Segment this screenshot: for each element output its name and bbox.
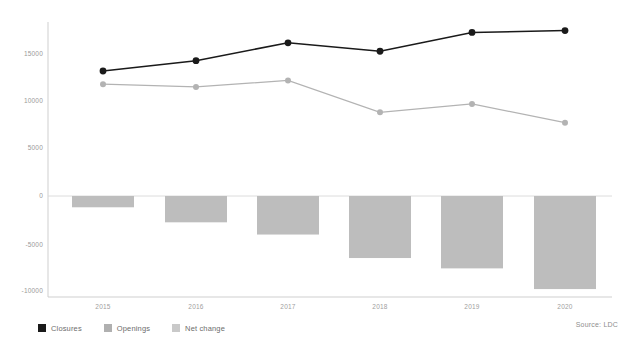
y-tick-label: -10000 xyxy=(22,287,44,294)
marker-closures xyxy=(562,27,569,34)
marker-openings xyxy=(377,109,383,115)
x-tick-label: 2017 xyxy=(280,303,295,310)
marker-closures xyxy=(100,68,107,75)
net-change-bar xyxy=(257,196,319,235)
chart-legend: Closures Openings Net change xyxy=(0,317,628,339)
legend-swatch-closures-icon xyxy=(38,324,46,332)
legend-item-net-change[interactable]: Net change xyxy=(172,324,225,333)
legend-label: Closures xyxy=(51,324,82,333)
source-note: Source: LDC xyxy=(576,321,618,328)
marker-openings xyxy=(469,101,475,107)
legend-swatch-openings-icon xyxy=(104,324,112,332)
y-tick-label: 15000 xyxy=(24,50,43,57)
x-tick-label: 2015 xyxy=(95,303,110,310)
marker-openings xyxy=(193,84,199,90)
x-tick-label: 2018 xyxy=(372,303,387,310)
legend-label: Openings xyxy=(117,324,150,333)
legend-swatch-net-change-icon xyxy=(172,324,180,332)
net-change-bar xyxy=(72,196,134,207)
marker-closures xyxy=(285,39,292,46)
legend-label: Net change xyxy=(185,324,225,333)
net-change-bar xyxy=(349,196,411,258)
marker-closures xyxy=(377,48,384,55)
x-tick-label: 2019 xyxy=(464,303,479,310)
chart-canvas: 15000 10000 5000 0 -5000 -10000 2015 201… xyxy=(0,0,628,349)
x-tick-label: 2020 xyxy=(557,303,572,310)
marker-closures xyxy=(469,29,476,36)
legend-item-closures[interactable]: Closures xyxy=(38,324,82,333)
x-tick-label: 2016 xyxy=(188,303,203,310)
marker-openings xyxy=(562,120,568,126)
net-change-bar xyxy=(534,196,596,289)
y-tick-label: 0 xyxy=(39,192,43,199)
y-tick-label: -5000 xyxy=(25,241,43,248)
marker-openings xyxy=(285,77,291,83)
marker-closures xyxy=(193,57,200,64)
net-change-bar xyxy=(165,196,227,222)
marker-openings xyxy=(100,81,106,87)
y-tick-label: 10000 xyxy=(24,97,43,104)
net-change-bar xyxy=(441,196,503,268)
y-tick-label: 5000 xyxy=(28,144,43,151)
legend-item-openings[interactable]: Openings xyxy=(104,324,150,333)
chart-container: 15000 10000 5000 0 -5000 -10000 2015 201… xyxy=(0,0,628,349)
